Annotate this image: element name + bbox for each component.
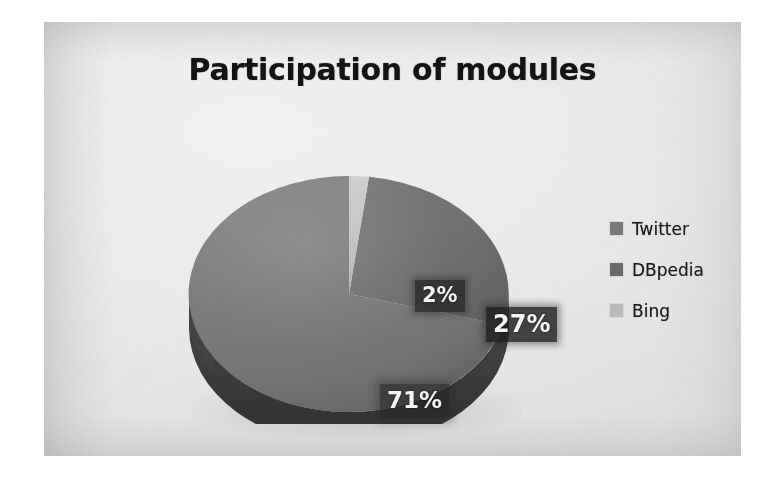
chart-legend: Twitter DBpedia Bing [610,208,740,331]
screenshot-root: Participation of modules [0,0,772,485]
legend-label-bing: Bing [632,301,670,321]
legend-swatch-icon-dbpedia [610,263,623,276]
pie-svg [154,114,544,424]
legend-label-twitter: Twitter [632,219,689,239]
legend-label-dbpedia: DBpedia [632,260,704,280]
data-label-twitter: 71% [380,384,449,418]
legend-item-twitter[interactable]: Twitter [610,208,740,249]
legend-swatch-icon-bing [610,304,623,317]
chart-title: Participation of modules [44,52,741,87]
chart-frame: Participation of modules [44,22,741,456]
legend-swatch-icon-twitter [610,222,623,235]
legend-item-dbpedia[interactable]: DBpedia [610,249,740,290]
data-label-bing: 2% [415,280,465,312]
data-label-dbpedia: 27% [486,307,557,342]
pie-chart: 2% 27% 71% [154,114,544,424]
legend-item-bing[interactable]: Bing [610,290,740,331]
